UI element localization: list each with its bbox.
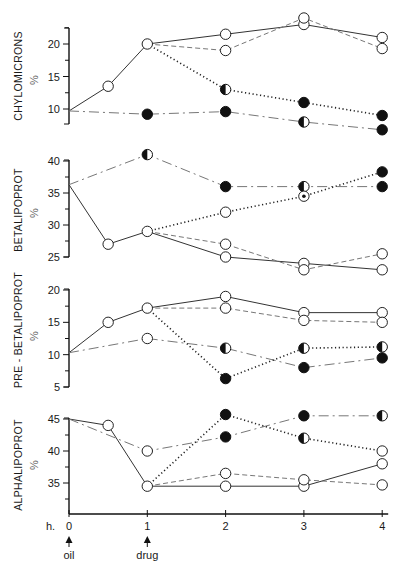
data-point-dot: [299, 191, 309, 201]
y-tick-label: 15: [48, 71, 60, 83]
data-point-half: [377, 342, 387, 352]
y-axis-label: ALPHALIPOPROT: [12, 419, 24, 511]
data-point-filled: [220, 106, 230, 116]
x-tick-label: 4: [379, 520, 385, 532]
data-point-open: [220, 239, 230, 249]
data-point-filled: [377, 110, 387, 120]
lipoprotein-chart: 101520CHYLOMICRONS%25303540BETALIPOPROT%…: [0, 0, 409, 568]
data-point-half-fill: [299, 343, 304, 353]
data-point-open: [220, 303, 230, 313]
data-point-filled: [377, 181, 387, 191]
y-axis-unit: %: [28, 75, 40, 85]
data-point-open: [377, 249, 387, 259]
data-point-filled: [220, 373, 230, 383]
data-point-open: [299, 13, 309, 23]
series-line-dashed: [147, 473, 382, 486]
data-point-open: [142, 333, 152, 343]
data-point-open: [220, 481, 230, 491]
data-point-half-fill: [377, 411, 382, 421]
data-point-open: [103, 420, 113, 430]
y-tick-label: 5: [54, 381, 60, 393]
x-unit-label: h.: [46, 520, 55, 532]
data-point-half-fill: [299, 117, 304, 127]
data-point-half-fill: [142, 149, 147, 159]
data-point-open: [103, 81, 113, 91]
panel-chylomicrons: 101520CHYLOMICRONS%: [12, 13, 387, 135]
x-tick-label: 3: [301, 520, 307, 532]
data-point-filled: [299, 97, 309, 107]
y-tick-label: 35: [48, 477, 60, 489]
annotation-label: drug: [136, 549, 158, 561]
data-point-half: [220, 343, 230, 353]
panel-pre-betalipoprot: 5101520PRE - BETALIPOPROT%: [12, 272, 387, 393]
data-point-open: [377, 459, 387, 469]
y-axis-unit: %: [28, 331, 40, 341]
data-point-half: [142, 149, 152, 159]
data-point-filled: [377, 125, 387, 135]
data-point-half: [299, 433, 309, 443]
data-point-open: [220, 207, 230, 217]
data-point-open: [377, 32, 387, 42]
data-point-filled: [220, 181, 230, 191]
data-point-half-fill: [220, 84, 225, 94]
panel-betalipoprot: 25303540BETALIPOPROT%: [12, 149, 387, 275]
y-tick-label: 40: [48, 445, 60, 457]
data-point-open: [142, 446, 152, 456]
y-tick-label: 10: [48, 349, 60, 361]
data-point-open: [220, 45, 230, 55]
data-point-open: [142, 39, 152, 49]
data-point-half: [377, 411, 387, 421]
data-point-open: [299, 265, 309, 275]
data-point-filled: [377, 353, 387, 363]
data-point-open: [377, 446, 387, 456]
data-point-open: [377, 265, 387, 275]
up-arrow-icon: [144, 536, 151, 543]
data-point-filled: [299, 411, 309, 421]
y-axis-unit: %: [28, 460, 40, 470]
data-point-open: [220, 29, 230, 39]
data-point-half: [299, 181, 309, 191]
data-point-open: [142, 303, 152, 313]
panel-alphalipoprot: 354045ALPHALIPOPROT%: [12, 409, 387, 514]
annotation-oil: oil: [63, 536, 74, 561]
y-axis-label: CHYLOMICRONS: [12, 31, 24, 120]
y-tick-label: 20: [48, 38, 60, 50]
data-point-half: [299, 117, 309, 127]
data-point-half-fill: [220, 343, 225, 353]
data-point-open: [299, 315, 309, 325]
data-point-open: [299, 475, 309, 485]
data-point-open: [142, 226, 152, 236]
y-tick-label: 10: [48, 103, 60, 115]
data-point-filled: [377, 167, 387, 177]
up-arrow-icon: [66, 536, 73, 543]
data-point-half-fill: [377, 342, 382, 352]
data-point-filled: [220, 432, 230, 442]
data-point-half: [299, 343, 309, 353]
data-point-open: [377, 307, 387, 317]
y-tick-label: 15: [48, 316, 60, 328]
data-point-filled: [299, 362, 309, 372]
data-point-half-fill: [299, 181, 304, 191]
annotation-label: oil: [63, 549, 74, 561]
data-point-open: [377, 43, 387, 53]
data-point-open: [220, 468, 230, 478]
annotation-drug: drug: [136, 536, 158, 561]
data-point-open: [220, 291, 230, 301]
y-tick-label: 35: [48, 187, 60, 199]
data-point-open: [220, 252, 230, 262]
data-point-open: [142, 481, 152, 491]
data-point-half-fill: [299, 433, 304, 443]
series-line-dotted: [147, 172, 382, 232]
y-tick-label: 30: [48, 219, 60, 231]
x-tick-label: 0: [66, 520, 72, 532]
data-point-open: [103, 239, 113, 249]
series-line-dotted: [147, 415, 382, 487]
data-point-filled: [142, 109, 152, 119]
data-point-open: [377, 480, 387, 490]
y-axis-unit: %: [28, 208, 40, 218]
data-point-open: [103, 317, 113, 327]
data-point-half: [220, 84, 230, 94]
y-tick-label: 40: [48, 155, 60, 167]
series-line-dashed: [147, 231, 382, 269]
y-tick-label: 20: [48, 284, 60, 296]
